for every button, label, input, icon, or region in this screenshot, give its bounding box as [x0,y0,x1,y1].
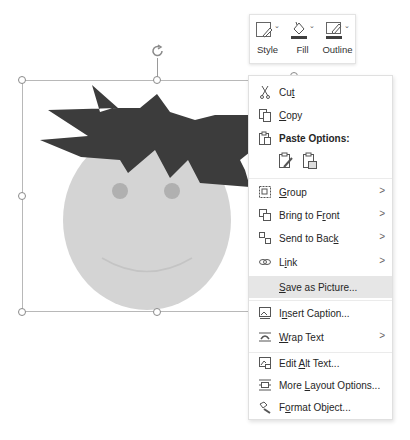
menu-item-bring-to-front[interactable]: Bring to Front > [249,204,392,226]
outline-button[interactable]: ⌄ Outline [321,20,354,55]
menu-item-label: Insert Caption... [279,308,350,319]
paste-keep-source-formatting-button[interactable] [277,151,295,171]
menu-item-insert-caption[interactable]: Insert Caption... [249,302,392,324]
fill-label: Fill [296,44,308,55]
menu-item-label: Group [279,187,307,198]
menu-item-label: Link [279,257,297,268]
group-icon [257,184,273,200]
paste-options-label: Paste Options: [279,133,350,144]
menu-item-format-object[interactable]: Format Object... [249,396,392,418]
context-menu: Cut Copy Paste Options: Group > Bring t [248,75,393,420]
menu-item-group[interactable]: Group > [249,181,392,203]
menu-item-copy[interactable]: Copy [249,104,392,126]
menu-item-cut[interactable]: Cut [249,81,392,103]
menu-item-label: Format Object... [279,402,351,413]
resize-handle-bottom-left[interactable] [18,308,26,316]
layout-options-icon [257,377,273,393]
menu-item-label: Send to Back [279,233,338,244]
resize-handle-top-center[interactable] [153,76,161,84]
resize-handle-bottom-center[interactable] [153,308,161,316]
menu-item-send-to-back[interactable]: Send to Back > [249,227,392,249]
copy-icon [257,107,273,123]
menu-item-wrap-text[interactable]: Wrap Text > [249,326,392,348]
shape-style-icon [255,20,273,40]
fill-button[interactable]: ⌄ Fill [286,20,319,55]
resize-handle-middle-left[interactable] [18,192,26,200]
insert-caption-icon [257,305,273,321]
send-to-back-icon [257,230,273,246]
format-object-icon [257,399,273,415]
wrap-text-icon [257,329,273,345]
menu-item-label: Copy [279,110,302,121]
menu-item-label: Wrap Text [279,332,324,343]
paste-keep-source-formatting-icon [278,152,294,170]
menu-item-label: Save as Picture... [279,282,357,293]
paste-icon [257,130,273,146]
link-icon [257,254,273,270]
menu-item-paste-options: Paste Options: [249,127,392,149]
mini-toolbar: ⌄ Style ⌄ Fill ⌄ Outline [249,14,356,64]
menu-item-save-as-picture[interactable]: Save as Picture... [249,276,392,298]
menu-item-link[interactable]: Link > [249,251,392,273]
chevron-right-icon: > [379,208,385,219]
outline-label: Outline [322,44,352,55]
paste-options-row [277,151,319,171]
paste-as-picture-button[interactable] [301,151,319,171]
menu-item-label: Cut [279,87,295,98]
menu-separator [249,178,392,179]
menu-item-more-layout-options[interactable]: More Layout Options... [249,374,392,396]
chevron-right-icon: > [379,185,385,196]
menu-separator [249,300,392,301]
chevron-down-icon: ⌄ [344,22,350,30]
alt-text-icon [257,355,273,371]
chevron-down-icon: ⌄ [309,22,315,30]
bring-to-front-icon [257,207,273,223]
menu-item-label: Bring to Front [279,210,340,221]
menu-item-label: More Layout Options... [279,380,380,391]
paste-as-picture-icon [302,152,318,170]
pencil-outline-icon [325,20,343,40]
resize-handle-top-left[interactable] [18,76,26,84]
paint-bucket-icon [290,20,308,40]
chevron-right-icon: > [379,330,385,341]
style-label: Style [257,44,278,55]
menu-item-edit-alt-text[interactable]: Edit Alt Text... [249,352,392,374]
chevron-right-icon: > [379,231,385,242]
style-button[interactable]: ⌄ Style [251,20,284,55]
chevron-down-icon: ⌄ [274,22,280,30]
menu-item-label: Edit Alt Text... [279,358,339,369]
rotate-handle-icon[interactable] [150,43,166,59]
scissors-icon [257,84,273,100]
chevron-right-icon: > [379,255,385,266]
